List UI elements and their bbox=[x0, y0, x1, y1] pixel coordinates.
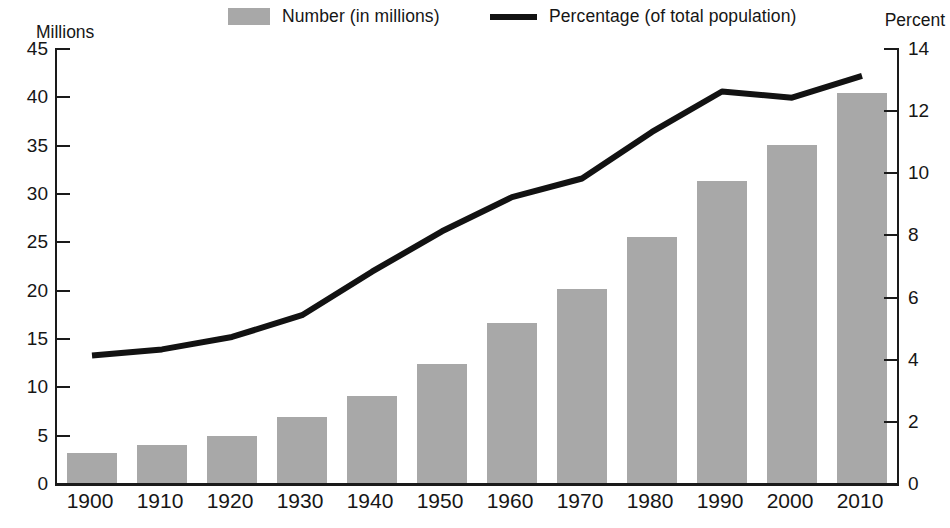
x-axis-tick-label: 1990 bbox=[697, 489, 744, 513]
x-axis-tick-label: 1950 bbox=[417, 489, 464, 513]
bar bbox=[837, 93, 887, 483]
y-axis-tick bbox=[57, 241, 70, 243]
bar bbox=[347, 396, 397, 483]
y-axis-tick-label: 25 bbox=[27, 232, 48, 251]
legend-line-icon bbox=[490, 14, 537, 20]
chart-root: Number (in millions) Percentage (of tota… bbox=[0, 0, 950, 528]
y-axis-tick-label: 45 bbox=[27, 39, 48, 58]
y2-axis-tick-label: 12 bbox=[908, 101, 929, 120]
x-axis-tick-label: 2010 bbox=[837, 489, 884, 513]
x-axis-tick-label: 1980 bbox=[627, 489, 674, 513]
y2-axis-tick bbox=[884, 110, 897, 112]
y-axis-tick bbox=[57, 96, 70, 98]
x-axis-tick-label: 1960 bbox=[487, 489, 534, 513]
y2-axis-tick bbox=[884, 234, 897, 236]
y-axis-tick-label: 35 bbox=[27, 135, 48, 154]
bar bbox=[627, 237, 677, 484]
bar bbox=[487, 323, 537, 483]
y2-axis-tick-label: 0 bbox=[908, 474, 919, 493]
y2-axis-tick bbox=[884, 172, 897, 174]
y2-axis-tick bbox=[884, 48, 897, 50]
x-axis-tick-label: 2000 bbox=[767, 489, 814, 513]
x-axis-tick-label: 1970 bbox=[557, 489, 604, 513]
y-axis-tick bbox=[57, 338, 70, 340]
legend-label-percentage: Percentage (of total population) bbox=[549, 6, 796, 27]
y2-axis-tick bbox=[884, 297, 897, 299]
y-axis-tick-label: 20 bbox=[27, 280, 48, 299]
x-axis-tick-label: 1940 bbox=[347, 489, 394, 513]
y2-axis-tick-label: 8 bbox=[908, 225, 919, 244]
bar bbox=[767, 145, 817, 483]
bar bbox=[207, 436, 257, 483]
right-axis-title: Percent bbox=[885, 10, 945, 31]
y-axis-tick bbox=[57, 193, 70, 195]
legend-item-percentage: Percentage (of total population) bbox=[490, 6, 796, 27]
bar-series bbox=[57, 48, 897, 483]
legend-label-number: Number (in millions) bbox=[282, 6, 440, 27]
y-axis-tick bbox=[57, 435, 70, 437]
y2-axis-tick-label: 6 bbox=[908, 287, 919, 306]
y2-axis-tick-label: 2 bbox=[908, 411, 919, 430]
legend-swatch-icon bbox=[228, 8, 270, 25]
y-axis-tick-label: 5 bbox=[37, 425, 48, 444]
y-axis-tick-label: 30 bbox=[27, 184, 48, 203]
y2-axis-tick bbox=[884, 359, 897, 361]
x-axis-labels: 1900191019201930194019501960197019801990… bbox=[55, 489, 895, 523]
y2-axis-tick-label: 4 bbox=[908, 349, 919, 368]
plot-area: 05101520253035404502468101214 bbox=[55, 48, 899, 486]
y-axis-tick-label: 0 bbox=[37, 474, 48, 493]
y-axis-tick bbox=[57, 386, 70, 388]
bar bbox=[277, 417, 327, 483]
x-axis-tick-label: 1900 bbox=[67, 489, 114, 513]
x-axis-tick-label: 1910 bbox=[137, 489, 184, 513]
bar bbox=[557, 289, 607, 483]
y-axis-tick bbox=[57, 483, 70, 485]
y2-axis-tick-label: 14 bbox=[908, 39, 929, 58]
x-axis-tick-label: 1920 bbox=[207, 489, 254, 513]
y-axis-tick-label: 40 bbox=[27, 87, 48, 106]
chart-legend: Number (in millions) Percentage (of tota… bbox=[0, 6, 950, 32]
y-axis-tick bbox=[57, 290, 70, 292]
y-axis-tick-label: 10 bbox=[27, 377, 48, 396]
y2-axis-tick bbox=[884, 483, 897, 485]
bar bbox=[67, 453, 117, 483]
bar bbox=[417, 364, 467, 483]
bar bbox=[137, 445, 187, 483]
y2-axis-tick-label: 10 bbox=[908, 163, 929, 182]
y-axis-tick-label: 15 bbox=[27, 329, 48, 348]
legend-item-number: Number (in millions) bbox=[228, 6, 440, 27]
y-axis-tick bbox=[57, 145, 70, 147]
bar bbox=[697, 181, 747, 483]
y2-axis-tick bbox=[884, 421, 897, 423]
x-axis-tick-label: 1930 bbox=[277, 489, 324, 513]
y-axis-tick bbox=[57, 48, 70, 50]
